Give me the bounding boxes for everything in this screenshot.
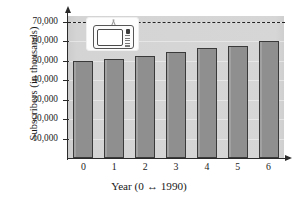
y-axis-tick-label: 10,000	[2, 133, 58, 143]
tv-slider-icon	[125, 38, 130, 39]
tv-dial-icon	[126, 29, 130, 34]
x-axis-tick-label: 5	[223, 161, 253, 172]
y-axis-tick-label: 60,000	[2, 35, 58, 45]
y-axis-tick-label: 40,000	[2, 74, 58, 84]
bar	[228, 46, 248, 158]
tv-icon	[86, 17, 139, 51]
tv-slider-icon	[125, 35, 130, 36]
bar-chart-figure: Subscribers (in thousands) 10,00020,0003…	[0, 0, 298, 207]
y-axis-tick-label: 30,000	[2, 94, 58, 104]
x-axis-title: Year (0 ↔ 1990)	[0, 180, 298, 192]
y-axis-tick	[63, 41, 69, 42]
y-axis-tick-label: 20,000	[2, 113, 58, 123]
bar	[197, 48, 217, 158]
y-axis-tick-label: 70,000	[2, 16, 58, 26]
tv-screen-icon	[97, 29, 123, 46]
y-axis-tick	[63, 61, 69, 62]
bar	[166, 52, 186, 158]
bar	[104, 59, 124, 158]
x-axis-tick-label: 1	[99, 161, 129, 172]
y-axis-tick-label: 50,000	[2, 55, 58, 65]
y-axis-tick	[63, 100, 69, 101]
bar	[259, 41, 279, 158]
bar	[135, 56, 155, 158]
tv-slider-icon	[125, 40, 130, 41]
x-axis-tick-label: 4	[192, 161, 222, 172]
y-axis-tick	[63, 139, 69, 140]
y-axis-tick	[63, 119, 69, 120]
x-axis-tick-label: 6	[254, 161, 284, 172]
arrow-right-icon	[285, 155, 292, 161]
x-axis-tick-label: 0	[68, 161, 98, 172]
bar	[73, 61, 93, 158]
x-axis-tick-label: 2	[130, 161, 160, 172]
x-axis-tick-label: 3	[161, 161, 191, 172]
tv-slider-icon	[125, 45, 130, 46]
tv-body-icon	[93, 25, 134, 49]
x-axis-line	[67, 158, 286, 159]
tv-slider-icon	[125, 43, 130, 44]
arrow-up-icon	[65, 6, 71, 13]
y-axis-tick	[63, 80, 69, 81]
